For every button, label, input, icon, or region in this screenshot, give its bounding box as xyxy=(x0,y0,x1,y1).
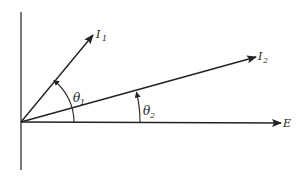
phasor-i2-subscript: 2 xyxy=(262,56,268,65)
phasor-i1 xyxy=(21,35,93,122)
phasor-e xyxy=(21,122,281,123)
phasor-i2 xyxy=(21,57,256,122)
theta2-arc-icon xyxy=(137,93,141,123)
phasor-e-label: E xyxy=(282,117,291,130)
theta1-arc-icon xyxy=(54,81,74,123)
phasor-i1-subscript: 1 xyxy=(102,34,107,43)
theta1-subscript: 1 xyxy=(80,98,85,107)
theta2-subscript: 2 xyxy=(149,111,155,120)
phasor-i1-label: I xyxy=(95,28,101,41)
phasor-diagram: E I 1 I 2 θ 1 θ 2 xyxy=(0,0,302,180)
